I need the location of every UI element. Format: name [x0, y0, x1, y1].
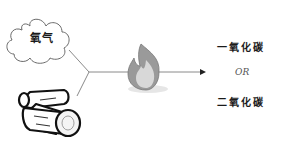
- carbon-monoxide-label: 一氧化碳: [217, 39, 265, 54]
- carbon-dioxide-label: 二氧化碳: [217, 94, 265, 109]
- arrow-head-icon: [200, 69, 206, 75]
- logs-icon: [19, 90, 80, 136]
- oxygen-label: 氧气: [30, 29, 54, 45]
- or-separator: OR: [235, 67, 249, 77]
- fire-icon: [128, 44, 168, 93]
